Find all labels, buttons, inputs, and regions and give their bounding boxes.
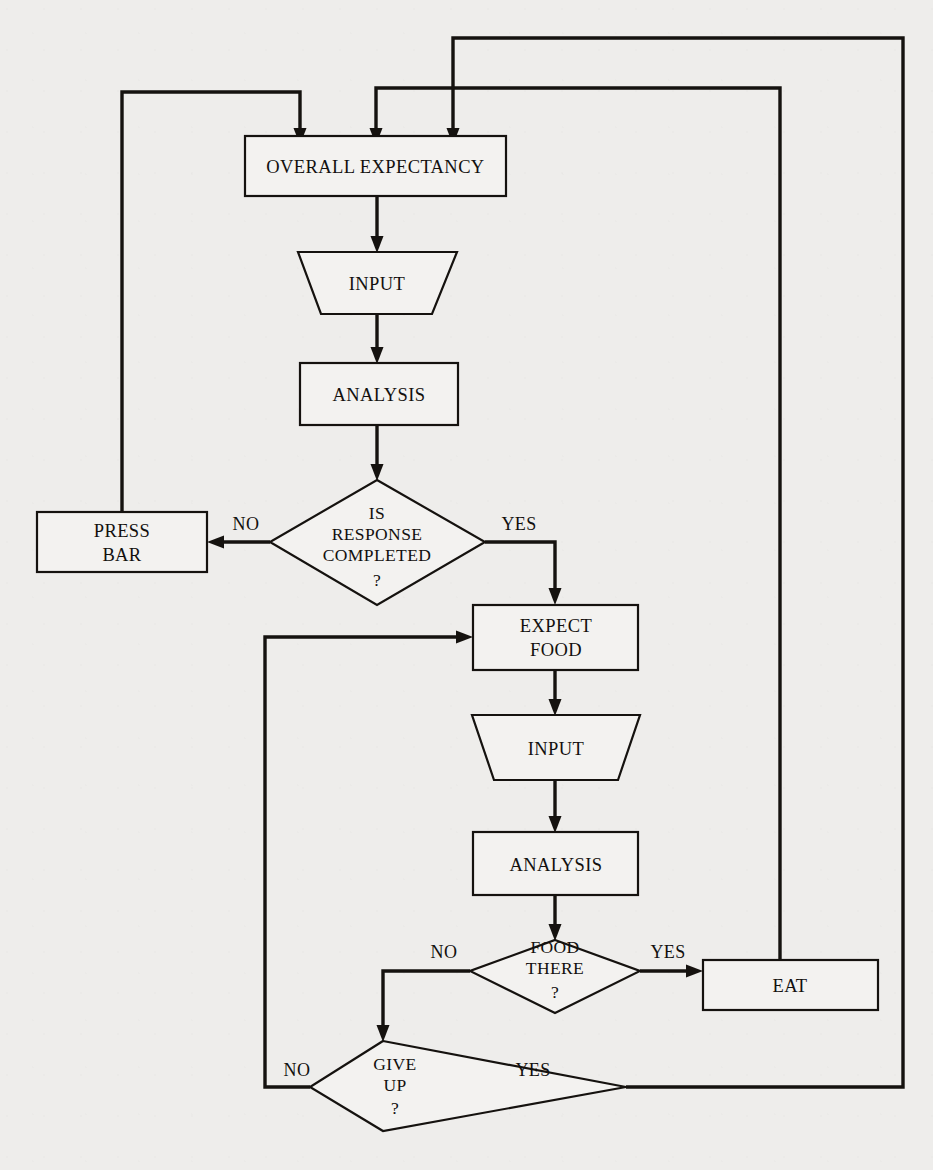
node-analysis-1[interactable]: ANALYSIS (300, 363, 458, 425)
node-is-response-completed-label-line-3: COMPLETED (323, 545, 432, 565)
arrowhead-icon (456, 631, 473, 644)
arrowhead-icon (207, 536, 224, 549)
node-give-up-label-line-3: ? (391, 1098, 399, 1118)
edge-input-1-to-analysis-1 (371, 314, 384, 364)
arrowhead-icon (686, 965, 703, 978)
node-press-bar[interactable]: PRESS BAR (37, 512, 207, 572)
edge-is-response-completed-no-to-press-bar (207, 536, 270, 549)
node-analysis-2-label: ANALYSIS (510, 855, 603, 875)
edge-input-2-to-analysis-2 (549, 780, 562, 833)
arrowhead-icon (371, 236, 384, 253)
edge-label-giveup-no: NO (284, 1060, 311, 1080)
edge-give-up-yes-to-overall-expectancy (447, 38, 904, 1087)
edge-label-response-no: NO (233, 514, 260, 534)
edge-is-response-completed-yes-to-expect-food (485, 542, 562, 605)
node-give-up-label-line-1: GIVE (373, 1054, 416, 1074)
arrowhead-icon (549, 699, 562, 716)
flowchart-diagram: OVERALL EXPECTANCY INPUT ANALYSIS IS RES… (0, 0, 933, 1170)
edge-food-there-no-to-give-up (377, 971, 471, 1042)
node-food-there-label-line-1: FOOD (530, 937, 579, 957)
edge-give-up-no-to-expect-food (265, 631, 473, 1088)
edge-expect-food-to-input-2 (549, 670, 562, 716)
node-input-2[interactable]: INPUT (472, 715, 640, 780)
edge-food-there-yes-to-eat (640, 965, 703, 978)
arrowhead-icon (549, 588, 562, 605)
edge-label-food-no: NO (431, 942, 458, 962)
edge-label-food-yes: YES (650, 942, 685, 962)
node-give-up-label-line-2: UP (383, 1075, 406, 1095)
node-food-there[interactable]: FOOD THERE ? (470, 937, 640, 1013)
node-input-2-label: INPUT (528, 739, 584, 759)
node-eat[interactable]: EAT (703, 960, 878, 1010)
node-is-response-completed-label-line-2: RESPONSE (332, 524, 423, 544)
edge-label-response-yes: YES (501, 514, 536, 534)
node-expect-food[interactable]: EXPECT FOOD (473, 605, 638, 670)
node-press-bar-label-line-1: PRESS (94, 521, 151, 541)
node-input-1-label: INPUT (349, 274, 405, 294)
node-is-response-completed-label-line-1: IS (369, 503, 385, 523)
node-food-there-label-line-2: THERE (526, 958, 584, 978)
node-analysis-2[interactable]: ANALYSIS (473, 832, 638, 895)
arrowhead-icon (549, 816, 562, 833)
arrowhead-icon (371, 464, 384, 481)
edge-overall-expectancy-to-input-1 (371, 196, 384, 253)
edge-label-giveup-yes: YES (515, 1060, 550, 1080)
node-expect-food-label-line-1: EXPECT (520, 616, 592, 636)
node-overall-expectancy[interactable]: OVERALL EXPECTANCY (245, 136, 506, 196)
node-analysis-1-label: ANALYSIS (333, 385, 426, 405)
node-eat-label: EAT (772, 976, 807, 996)
node-food-there-label-line-3: ? (551, 982, 559, 1002)
edge-analysis-1-to-is-response-completed (371, 425, 384, 481)
flowchart-canvas: OVERALL EXPECTANCY INPUT ANALYSIS IS RES… (0, 0, 933, 1170)
node-overall-expectancy-label: OVERALL EXPECTANCY (266, 157, 484, 177)
arrowhead-icon (377, 1025, 390, 1042)
node-press-bar-label-line-2: BAR (102, 545, 141, 565)
node-is-response-completed-label-line-4: ? (373, 570, 381, 590)
node-expect-food-label-line-2: FOOD (530, 640, 582, 660)
edge-analysis-2-to-food-there (549, 895, 562, 941)
node-give-up[interactable]: GIVE UP ? (310, 1041, 626, 1131)
node-is-response-completed[interactable]: IS RESPONSE COMPLETED ? (270, 480, 485, 605)
arrowhead-icon (371, 347, 384, 364)
node-input-1[interactable]: INPUT (298, 252, 457, 314)
